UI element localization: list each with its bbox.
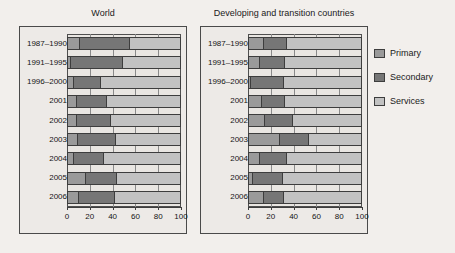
x-axis-tick xyxy=(339,207,340,210)
bar-row xyxy=(248,172,362,185)
x-axis-tick xyxy=(113,207,114,210)
legend-label-secondary: Secondary xyxy=(390,72,433,82)
x-axis-tick-label: 60 xyxy=(131,212,140,221)
chart-figure: World Developing and transition countrie… xyxy=(0,0,455,253)
bar-segment-services xyxy=(287,153,361,164)
bar-segment-secondary xyxy=(264,192,284,203)
bar-row xyxy=(248,56,362,69)
bar-segment-primary xyxy=(68,38,80,49)
x-axis-tick xyxy=(158,207,159,210)
bar-row xyxy=(248,152,362,165)
y-axis-label: 2003 xyxy=(49,136,67,144)
x-axis-tick-label: 100 xyxy=(355,212,368,221)
y-axis-label: 2002 xyxy=(230,117,248,125)
bar-segment-primary xyxy=(68,96,77,107)
bar-row xyxy=(248,37,362,50)
chart-panel-world: 1987–19901991–19951996–20002001200220032… xyxy=(19,26,187,234)
bar-segment-services xyxy=(283,173,361,184)
panel-title-world: World xyxy=(19,8,187,18)
bar-segment-secondary xyxy=(264,38,288,49)
bar-segment-secondary xyxy=(251,77,283,88)
bar-segment-primary xyxy=(249,115,265,126)
bar-segment-secondary xyxy=(86,173,117,184)
bar-segment-primary xyxy=(249,153,260,164)
bar-segment-services xyxy=(284,77,361,88)
bar-segment-secondary xyxy=(253,173,282,184)
bar-segment-services xyxy=(123,57,180,68)
bar-segment-secondary xyxy=(265,115,293,126)
x-axis-tick-label: 40 xyxy=(108,212,117,221)
bar-segment-primary xyxy=(249,192,264,203)
bar-row xyxy=(67,133,181,146)
chart-panel-developing: 1987–19901991–19951996–20002001200220032… xyxy=(200,26,368,234)
x-axis-tick xyxy=(67,207,68,210)
bar-segment-secondary xyxy=(79,192,115,203)
x-axis-tick xyxy=(135,207,136,210)
bar-row xyxy=(248,191,362,204)
bar-segment-primary xyxy=(68,173,86,184)
bar-row xyxy=(248,114,362,127)
y-axis-label: 2001 xyxy=(49,97,67,105)
bar-segment-services xyxy=(285,57,361,68)
y-axis-label: 2006 xyxy=(49,193,67,201)
legend-swatch-services xyxy=(374,97,385,106)
x-axis-tick xyxy=(316,207,317,210)
bar-segment-primary xyxy=(249,96,262,107)
y-axis-label: 1987–1990 xyxy=(208,40,248,48)
x-axis: 020406080100 xyxy=(248,207,362,208)
y-axis-label: 2005 xyxy=(49,174,67,182)
x-axis-tick xyxy=(362,207,363,210)
bar-segment-secondary xyxy=(260,57,285,68)
y-axis-label: 2004 xyxy=(230,155,248,163)
bar-segment-secondary xyxy=(80,38,129,49)
x-axis-tick-label: 80 xyxy=(335,212,344,221)
legend-swatch-primary xyxy=(374,49,385,58)
x-axis-tick-label: 60 xyxy=(312,212,321,221)
y-axis-label: 2005 xyxy=(230,174,248,182)
x-axis-tick xyxy=(90,207,91,210)
legend-swatch-secondary xyxy=(374,73,385,82)
x-axis-tick-label: 0 xyxy=(65,212,69,221)
bar-segment-secondary xyxy=(71,57,123,68)
x-axis-tick xyxy=(294,207,295,210)
bar-segment-services xyxy=(101,77,181,88)
legend-item-services: Services xyxy=(374,96,454,106)
legend-label-services: Services xyxy=(390,96,425,106)
y-axis-label: 2004 xyxy=(49,155,67,163)
bar-row xyxy=(248,133,362,146)
bar-segment-services xyxy=(285,96,361,107)
bar-segment-primary xyxy=(249,38,264,49)
x-axis-tick-label: 40 xyxy=(289,212,298,221)
bar-row xyxy=(248,95,362,108)
bar-segment-services xyxy=(309,134,361,145)
bar-segment-primary xyxy=(68,115,77,126)
x-axis-tick-label: 20 xyxy=(85,212,94,221)
bar-row xyxy=(67,56,181,69)
plot-area-world xyxy=(67,34,181,207)
bar-segment-secondary xyxy=(280,134,309,145)
y-axis-label: 1991–1995 xyxy=(27,59,67,67)
legend-item-primary: Primary xyxy=(374,48,454,58)
bar-row xyxy=(67,152,181,165)
y-axis-label: 1996–2000 xyxy=(27,78,67,86)
bar-row xyxy=(248,76,362,89)
x-axis: 020406080100 xyxy=(67,207,181,208)
bar-segment-secondary xyxy=(77,96,107,107)
chart-legend: Primary Secondary Services xyxy=(374,48,454,120)
y-axis-label: 2003 xyxy=(230,136,248,144)
bar-segment-secondary xyxy=(260,153,287,164)
bar-segment-services xyxy=(116,134,180,145)
bar-segment-services xyxy=(287,38,361,49)
bar-segment-services xyxy=(130,38,180,49)
bar-row xyxy=(67,114,181,127)
y-axis-label: 2002 xyxy=(49,117,67,125)
bar-segment-secondary xyxy=(74,77,101,88)
bar-segment-services xyxy=(107,96,180,107)
x-axis-tick xyxy=(271,207,272,210)
bar-row xyxy=(67,37,181,50)
y-axis-label: 2006 xyxy=(230,193,248,201)
x-axis-tick-label: 80 xyxy=(154,212,163,221)
y-axis-label: 1996–2000 xyxy=(208,78,248,86)
bar-segment-primary xyxy=(68,192,79,203)
bar-segment-services xyxy=(111,115,180,126)
